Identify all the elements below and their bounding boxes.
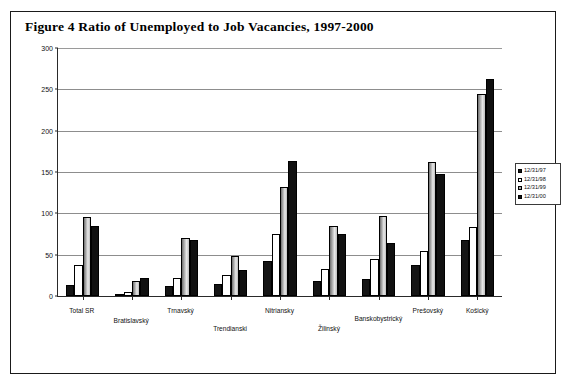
category-label-trendianski: Trendianski bbox=[213, 325, 247, 332]
y-axis-tick-label: 100 bbox=[41, 210, 53, 217]
bar[interactable] bbox=[231, 256, 239, 296]
x-axis-tick bbox=[181, 296, 182, 300]
bar[interactable] bbox=[370, 259, 378, 296]
legend-item-label: 12/31/00 bbox=[524, 194, 546, 200]
black-swatch-icon bbox=[518, 195, 522, 199]
x-axis-tick bbox=[132, 296, 133, 300]
bar[interactable] bbox=[321, 269, 329, 296]
legend-item[interactable]: 12/31/00 bbox=[518, 193, 557, 202]
bar[interactable] bbox=[181, 238, 189, 296]
bar[interactable] bbox=[91, 226, 99, 296]
bar[interactable] bbox=[263, 261, 271, 296]
bar-group bbox=[58, 48, 107, 296]
x-axis-tick bbox=[83, 296, 84, 300]
bar-group bbox=[305, 48, 354, 296]
bar[interactable] bbox=[379, 216, 387, 296]
legend-item[interactable]: 12/31/99 bbox=[518, 184, 557, 193]
bar[interactable] bbox=[280, 187, 288, 296]
x-axis-tick bbox=[280, 296, 281, 300]
category-label-trnavský: Trnavský bbox=[167, 307, 194, 314]
black-swatch-icon bbox=[518, 169, 522, 173]
category-label-prešovský: Prešovský bbox=[413, 307, 443, 314]
bar-group bbox=[403, 48, 452, 296]
white-swatch-icon bbox=[518, 178, 522, 182]
bar[interactable] bbox=[272, 234, 280, 296]
bar[interactable] bbox=[165, 286, 173, 296]
category-label-nitriansky: Nitriansky bbox=[265, 307, 294, 314]
bar[interactable] bbox=[411, 265, 419, 296]
bar[interactable] bbox=[420, 251, 428, 296]
x-axis-tick bbox=[379, 296, 380, 300]
bar[interactable] bbox=[329, 226, 337, 296]
bars-layer bbox=[58, 48, 502, 296]
bar[interactable] bbox=[338, 234, 346, 296]
bar[interactable] bbox=[173, 278, 181, 296]
x-axis-tick bbox=[329, 296, 330, 300]
bar[interactable] bbox=[428, 162, 436, 296]
category-label-bratislavský: Bratislavský bbox=[114, 317, 149, 324]
y-axis-tick-label: 0 bbox=[49, 293, 53, 300]
bar[interactable] bbox=[436, 174, 444, 296]
category-label-total-sr: Total SR bbox=[69, 307, 94, 314]
bar[interactable] bbox=[239, 270, 247, 296]
bar-group bbox=[354, 48, 403, 296]
category-label-banskobystrický: Banskobystrický bbox=[355, 315, 403, 322]
bar[interactable] bbox=[222, 275, 230, 296]
y-axis-tick-label: 300 bbox=[41, 45, 53, 52]
x-axis-tick bbox=[477, 296, 478, 300]
bar[interactable] bbox=[313, 281, 321, 296]
bar[interactable] bbox=[477, 94, 485, 296]
legend-item-label: 12/31/98 bbox=[524, 177, 546, 183]
bar[interactable] bbox=[66, 285, 74, 296]
bar[interactable] bbox=[387, 243, 395, 296]
bar[interactable] bbox=[288, 161, 296, 296]
bar[interactable] bbox=[115, 294, 123, 296]
bar[interactable] bbox=[461, 240, 469, 296]
bar[interactable] bbox=[132, 281, 140, 296]
bar-group bbox=[157, 48, 206, 296]
category-label-žilinský: Žilinský bbox=[318, 325, 340, 332]
category-label-košický: Košický bbox=[466, 307, 489, 314]
bar-group bbox=[453, 48, 502, 296]
x-axis-tick bbox=[231, 296, 232, 300]
figure-frame: Figure 4 Ratio of Unemployed to Job Vaca… bbox=[10, 11, 556, 374]
bar-group bbox=[206, 48, 255, 296]
legend-item-label: 12/31/97 bbox=[524, 168, 546, 174]
bar[interactable] bbox=[190, 240, 198, 296]
bar-group bbox=[255, 48, 304, 296]
bar[interactable] bbox=[362, 279, 370, 296]
plot-area: 050100150200250300 bbox=[57, 48, 502, 297]
gray-swatch-icon bbox=[518, 186, 522, 190]
bar[interactable] bbox=[486, 79, 494, 296]
legend-item[interactable]: 12/31/98 bbox=[518, 176, 557, 185]
bar[interactable] bbox=[140, 278, 148, 296]
x-axis-tick bbox=[428, 296, 429, 300]
chart-legend: 12/31/9712/31/9812/31/9912/31/00 bbox=[515, 163, 561, 205]
figure-title: Figure 4 Ratio of Unemployed to Job Vaca… bbox=[25, 19, 374, 35]
bar[interactable] bbox=[74, 265, 82, 296]
y-axis-tick-label: 200 bbox=[41, 127, 53, 134]
bar[interactable] bbox=[124, 292, 132, 296]
y-axis-tick-label: 250 bbox=[41, 86, 53, 93]
bar[interactable] bbox=[214, 284, 222, 296]
bar-group bbox=[107, 48, 156, 296]
bar[interactable] bbox=[83, 217, 91, 296]
y-axis-tick-label: 150 bbox=[41, 169, 53, 176]
bar[interactable] bbox=[469, 227, 477, 296]
legend-item[interactable]: 12/31/97 bbox=[518, 167, 557, 176]
category-axis-labels: Total SRBratislavskýTrnavskýTrendianskiN… bbox=[57, 303, 502, 349]
y-axis-tick-label: 50 bbox=[45, 251, 53, 258]
legend-item-label: 12/31/99 bbox=[524, 185, 546, 191]
